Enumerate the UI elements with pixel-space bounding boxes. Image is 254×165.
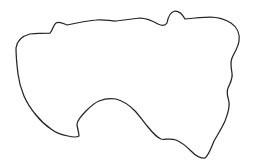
outline-shape-figure — [0, 0, 254, 165]
figure-background — [0, 0, 254, 165]
image-canvas — [0, 0, 254, 165]
